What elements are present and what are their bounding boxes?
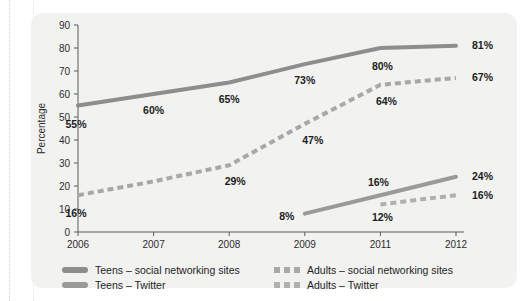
series-line-0 <box>78 46 456 106</box>
data-point-label: 29% <box>225 175 247 187</box>
data-point-label: 80% <box>372 60 394 72</box>
legend-swatch-icon <box>62 267 88 273</box>
legend-swatch-icon <box>62 282 88 288</box>
x-tick-label: 2009 <box>294 239 317 250</box>
legend-item[interactable]: Teens – Twitter <box>62 279 274 291</box>
data-point-label: 73% <box>294 74 316 86</box>
line-chart: 0102030405060708090200620072008200920112… <box>31 13 517 288</box>
y-tick-label: 40 <box>59 135 71 146</box>
y-tick-label: 70 <box>59 66 71 77</box>
x-tick-label: 2008 <box>218 239 241 250</box>
y-tick-label: 30 <box>59 158 71 169</box>
page-binding-rule <box>9 0 10 301</box>
data-point-label: 24% <box>472 170 494 182</box>
data-point-label: 16% <box>368 176 390 188</box>
legend-item[interactable]: Adults – Twitter <box>274 279 486 291</box>
data-point-label: 47% <box>302 134 324 146</box>
data-point-label: 67% <box>472 71 494 83</box>
figure-page: 0102030405060708090200620072008200920112… <box>0 0 529 301</box>
chart-panel: 0102030405060708090200620072008200920112… <box>31 13 517 288</box>
x-tick-label: 2011 <box>370 239 392 250</box>
legend-label: Teens – Twitter <box>95 279 165 291</box>
legend-label: Adults – social networking sites <box>307 264 453 276</box>
legend-swatch-icon <box>274 267 300 273</box>
x-tick-label: 2012 <box>445 239 468 250</box>
series-line-3 <box>380 195 456 204</box>
data-point-label: 55% <box>65 118 87 130</box>
data-point-label: 60% <box>143 104 165 116</box>
data-point-label: 8% <box>279 210 295 222</box>
data-point-label: 65% <box>219 93 241 105</box>
x-tick-label: 2007 <box>142 239 165 250</box>
legend-swatch-icon <box>274 282 300 288</box>
y-tick-label: 60 <box>59 89 71 100</box>
x-tick-label: 2006 <box>67 239 90 250</box>
y-tick-label: 90 <box>59 20 71 31</box>
y-axis-title: Percentage <box>36 102 47 154</box>
legend-item[interactable]: Adults – social networking sites <box>274 264 486 276</box>
y-tick-label: 80 <box>59 43 71 54</box>
data-point-label: 64% <box>376 95 398 107</box>
data-point-label: 16% <box>65 207 87 219</box>
chart-legend: Teens – social networking sitesAdults – … <box>62 262 482 292</box>
legend-item[interactable]: Teens – social networking sites <box>62 264 274 276</box>
data-point-label: 16% <box>472 189 494 201</box>
data-point-label: 12% <box>372 211 394 223</box>
legend-label: Adults – Twitter <box>307 279 379 291</box>
y-tick-label: 0 <box>64 227 70 238</box>
legend-label: Teens – social networking sites <box>95 264 240 276</box>
y-tick-label: 20 <box>59 181 71 192</box>
data-point-label: 81% <box>472 39 494 51</box>
